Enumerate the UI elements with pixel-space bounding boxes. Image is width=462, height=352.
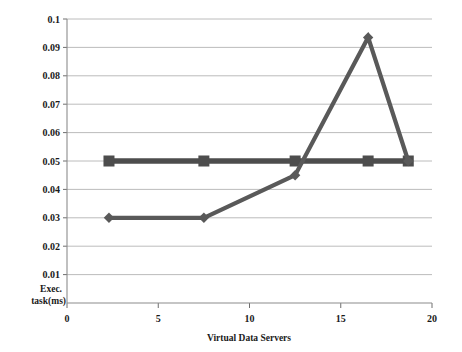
y-tick-label-0: 0.01	[43, 269, 61, 280]
y-tick-label-6: 0.07	[43, 99, 61, 110]
y-axis-title-line1: Exec.	[40, 284, 62, 294]
y-tick-label-9: 0.1	[48, 14, 61, 25]
data-point-square-1	[198, 156, 209, 167]
line-chart: 0.010.020.030.040.050.060.070.080.090.1 …	[0, 0, 462, 352]
data-point-square-0	[103, 156, 114, 167]
x-axis-title: Virtual Data Servers	[207, 333, 291, 343]
x-tick-label-0: 0	[65, 313, 70, 324]
x-tick-label-1: 5	[156, 313, 161, 324]
y-tick-label-5: 0.06	[43, 127, 61, 138]
y-tick-label-3: 0.04	[43, 184, 61, 195]
y-tick-label-4: 0.05	[43, 156, 61, 167]
chart-container: 0.010.020.030.040.050.060.070.080.090.1 …	[0, 0, 462, 352]
y-axis-title-line2: task(ms)	[31, 296, 66, 307]
chart-background	[0, 0, 462, 352]
data-point-square-3	[363, 156, 374, 167]
y-tick-label-2: 0.03	[43, 212, 61, 223]
y-tick-label-1: 0.02	[43, 241, 61, 252]
x-tick-label-2: 10	[245, 313, 255, 324]
y-tick-label-7: 0.08	[43, 70, 61, 81]
y-tick-label-8: 0.09	[43, 42, 61, 53]
x-tick-label-4: 20	[427, 313, 437, 324]
x-tick-label-3: 15	[336, 313, 346, 324]
